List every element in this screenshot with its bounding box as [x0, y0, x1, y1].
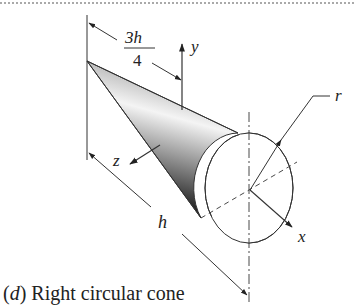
y-axis-label: y	[189, 37, 199, 56]
dimension-3h4-denominator: 4	[133, 51, 142, 70]
height-arrow-upper	[89, 153, 151, 207]
cone-surface	[87, 61, 238, 218]
dimension-3h4-arrow-left	[89, 23, 117, 40]
radius-label: r	[335, 86, 342, 105]
height-label: h	[158, 212, 167, 232]
cone-diagram: y 3h 4 x r z h (d) Right circular cone	[0, 0, 355, 308]
x-axis-label: x	[297, 227, 306, 246]
figure-caption: (d) Right circular cone	[3, 282, 185, 305]
radius-leader	[281, 96, 330, 140]
dimension-3h4-arrow-right	[152, 63, 181, 80]
dimension-3h4-numerator: 3h	[124, 28, 142, 47]
z-axis-label: z	[112, 151, 120, 170]
